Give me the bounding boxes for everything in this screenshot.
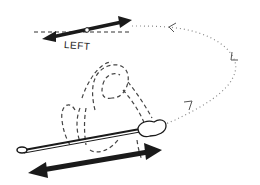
dotted-loop-path [132,26,236,130]
direction-label: LEFT [64,39,91,52]
casting-diagram [0,0,260,185]
hand-grip [138,120,166,137]
dashed-figure-outline [62,62,152,160]
rod [17,129,140,153]
rod-loop-end [17,147,27,153]
path-arrowhead-bottom [184,101,192,110]
pivot-point [85,28,90,33]
